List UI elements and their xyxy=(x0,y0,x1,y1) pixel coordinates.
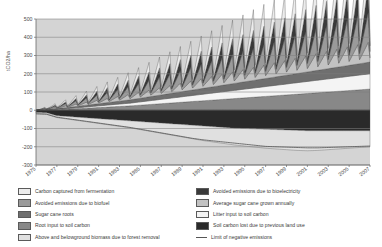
x-tick-label: 1983 xyxy=(107,165,120,177)
y-tick-label: 100 xyxy=(24,89,33,95)
x-tick-label: 1991 xyxy=(191,165,204,177)
x-tick-label: 1993 xyxy=(212,165,225,177)
y-tick-label: -100 xyxy=(22,125,32,131)
chart-legend: Carbon captured from fermentation Avoide… xyxy=(18,186,374,244)
legend-column-right: Avoided emissions due to bioelectricity … xyxy=(196,186,374,244)
x-tick-label: 1981 xyxy=(86,165,99,177)
y-tick-label: 500 xyxy=(24,16,33,22)
legend-label: Root input to soil carbon xyxy=(35,223,90,228)
list-item[interactable]: Avoided emissions due to bioelectricity xyxy=(196,186,374,197)
x-tick-label: 1989 xyxy=(170,165,183,177)
list-item[interactable]: Litter input to soil carbon xyxy=(196,209,374,220)
y-axis-ticks: -300-200-1000100200300400500 xyxy=(22,16,36,168)
x-tick-label: 1979 xyxy=(66,165,79,177)
legend-swatch xyxy=(18,222,31,229)
legend-label: Limit of negative emissions xyxy=(211,235,272,240)
x-tick-label: 2005 xyxy=(337,165,350,177)
y-tick-label: 200 xyxy=(24,71,33,77)
x-tick-label: 2003 xyxy=(316,165,329,177)
x-tick-label: 1999 xyxy=(274,165,287,177)
legend-swatch xyxy=(18,199,31,206)
legend-swatch xyxy=(18,211,31,218)
legend-column-left: Carbon captured from fermentation Avoide… xyxy=(18,186,196,244)
x-tick-label: 1985 xyxy=(128,165,141,177)
legend-label: Avoided emissions due to biofuel xyxy=(35,201,109,206)
legend-swatch xyxy=(196,188,209,195)
chart-figure: -300-200-1000100200300400500197519771979… xyxy=(0,0,382,247)
x-tick-label: 2001 xyxy=(295,165,308,177)
legend-swatch xyxy=(196,211,209,218)
x-tick-label: 1977 xyxy=(45,165,58,177)
legend-label: Above and belowground biomass due to for… xyxy=(35,235,160,240)
list-item[interactable]: Avoided emissions due to biofuel xyxy=(18,197,196,208)
legend-label: Average sugar cane grown annually xyxy=(213,201,294,206)
y-tick-label: 300 xyxy=(24,52,33,58)
list-item[interactable]: Carbon captured from fermentation xyxy=(18,186,196,197)
legend-label: Avoided emissions due to bioelectricity xyxy=(213,189,300,194)
list-item[interactable]: Average sugar cane grown annually xyxy=(196,197,374,208)
x-tick-label: 2007 xyxy=(358,165,371,177)
list-item[interactable]: Root input to soil carbon xyxy=(18,220,196,231)
list-item[interactable]: Limit of negative emissions xyxy=(196,232,374,243)
y-tick-label: -200 xyxy=(22,144,32,150)
legend-label: Soil carbon lost due to previous land us… xyxy=(213,223,305,228)
legend-swatch xyxy=(18,234,31,241)
x-axis-ticks: 1975197719791981198319851987198919911993… xyxy=(24,165,371,177)
legend-swatch-line xyxy=(196,237,207,238)
legend-swatch xyxy=(18,188,31,195)
x-tick-label: 1995 xyxy=(233,165,246,177)
legend-swatch xyxy=(196,199,209,206)
x-tick-label: 1997 xyxy=(253,165,266,177)
y-tick-label: 0 xyxy=(30,107,33,113)
legend-label: Carbon captured from fermentation xyxy=(35,189,114,194)
legend-swatch xyxy=(196,222,209,229)
list-item[interactable]: Sugar cane roots xyxy=(18,209,196,220)
y-axis-label: tCO2/ha xyxy=(5,59,11,71)
y-tick-label: 400 xyxy=(24,34,33,40)
legend-label: Litter input to soil carbon xyxy=(213,212,269,217)
x-tick-label: 1987 xyxy=(149,165,162,177)
list-item[interactable]: Above and belowground biomass due to for… xyxy=(18,232,196,243)
list-item[interactable]: Soil carbon lost due to previous land us… xyxy=(196,220,374,231)
legend-label: Sugar cane roots xyxy=(35,212,74,217)
